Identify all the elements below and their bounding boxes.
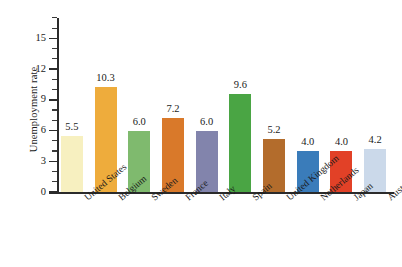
y-axis-tick-labels: 03691215 — [22, 0, 46, 267]
y-tick-label: 6 — [24, 125, 46, 136]
y-tick-major — [49, 38, 57, 39]
x-category-label: United States — [82, 194, 89, 202]
x-category-label: France — [183, 194, 190, 202]
x-category-label: Spain — [250, 194, 257, 202]
y-tick-major — [49, 68, 57, 69]
x-category-label: Australia — [385, 194, 392, 202]
x-category-label: United Kingdom — [284, 194, 291, 202]
y-tick-major — [49, 99, 57, 100]
bar — [229, 94, 251, 192]
bar — [61, 136, 83, 192]
bar-chart: Unemployment rate 03691215 5.510.36.07.2… — [0, 0, 402, 267]
x-category-label: Italy — [217, 194, 224, 202]
y-tick-label: 12 — [24, 64, 46, 75]
bar-value-label: 4.2 — [355, 135, 395, 146]
bar-value-label: 5.2 — [254, 125, 294, 136]
bar-value-label: 5.5 — [52, 122, 92, 133]
y-tick-label: 9 — [24, 94, 46, 105]
bar-value-label: 7.2 — [153, 104, 193, 115]
bars-layer: 5.510.36.07.26.09.65.24.04.04.2 — [57, 18, 394, 192]
x-category-label: Sweden — [149, 194, 156, 202]
x-category-label: Belgium — [116, 194, 123, 202]
x-axis-category-labels: United StatesBelgiumSwedenFranceItalySpa… — [57, 194, 402, 267]
bar-value-label: 6.0 — [187, 117, 227, 128]
y-tick-label: 0 — [24, 187, 46, 198]
x-category-label: Netherlands — [318, 194, 325, 202]
y-tick-major — [49, 161, 57, 162]
y-tick-major — [49, 191, 57, 192]
bar-value-label: 9.6 — [220, 80, 260, 91]
x-category-label: Japan — [351, 194, 358, 202]
y-tick-label: 3 — [24, 156, 46, 167]
bar-value-label: 10.3 — [86, 73, 126, 84]
bar-value-label: 6.0 — [119, 117, 159, 128]
y-tick-label: 15 — [24, 33, 46, 44]
